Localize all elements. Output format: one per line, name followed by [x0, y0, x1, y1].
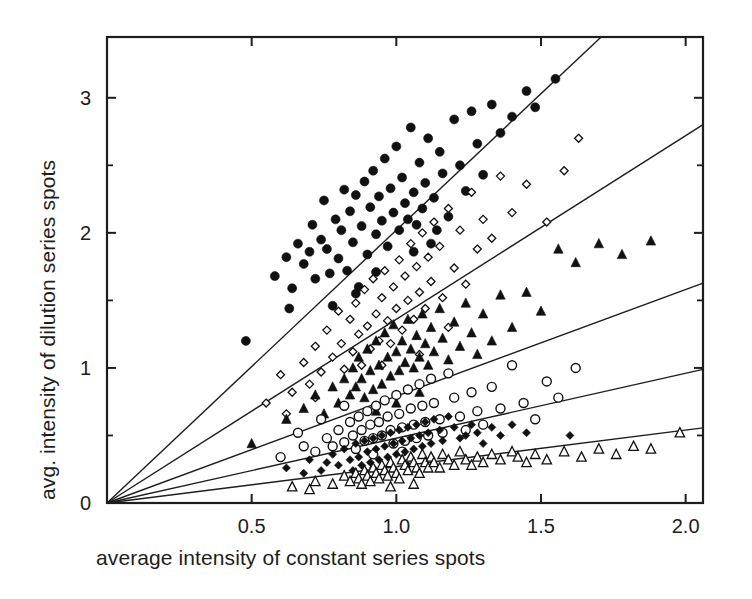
data-point [386, 371, 395, 380]
data-point [455, 341, 464, 350]
data-point [438, 169, 447, 178]
data-point [282, 253, 291, 262]
data-point [363, 407, 372, 416]
data-point [306, 380, 314, 388]
x-axis-label: average intensity of constant series spo… [96, 546, 485, 570]
data-point [241, 336, 250, 345]
data-point [496, 290, 505, 299]
data-point [328, 479, 337, 488]
data-point [427, 440, 435, 448]
data-point [467, 328, 476, 337]
data-point [346, 207, 355, 216]
data-point [409, 188, 418, 197]
data-point [404, 296, 412, 304]
data-point [424, 253, 432, 261]
data-point [288, 388, 296, 396]
data-point [449, 317, 458, 326]
fit-2 [107, 125, 703, 503]
data-point [473, 139, 482, 148]
data-point [311, 447, 320, 456]
data-point [343, 266, 352, 275]
data-point [429, 193, 438, 202]
y-axis-label: avg. intensity of dilution series spots [36, 160, 60, 500]
data-point [429, 347, 438, 356]
scatter-plot-figure: 0.51.01.52.00123 average intensity of co… [0, 0, 752, 599]
data-point [247, 438, 256, 447]
data-point [508, 112, 517, 121]
data-point [348, 238, 357, 247]
data-point [522, 87, 531, 96]
data-point [276, 453, 285, 462]
data-point [395, 409, 404, 418]
data-point [551, 74, 560, 83]
svg-text:3: 3 [80, 87, 91, 109]
axis-ticks [107, 37, 703, 503]
data-point [311, 342, 319, 350]
data-point [456, 226, 464, 234]
data-point [479, 420, 488, 429]
data-point [363, 250, 372, 259]
data-point [421, 178, 430, 187]
data-point [300, 469, 308, 477]
data-point [360, 392, 369, 401]
data-point [323, 458, 331, 466]
data-point [383, 352, 392, 361]
data-point [372, 230, 381, 239]
data-point [415, 380, 424, 389]
data-point [392, 304, 400, 312]
data-point [479, 170, 488, 179]
data-point [418, 401, 427, 410]
data-point [435, 303, 444, 312]
data-point [496, 431, 504, 439]
series-open-diamonds [262, 134, 582, 418]
data-point [401, 272, 409, 280]
data-point [372, 310, 380, 318]
data-point [508, 361, 517, 370]
data-point [355, 330, 363, 338]
data-point [438, 449, 447, 458]
data-point [531, 415, 540, 424]
data-point [392, 142, 401, 151]
data-point [403, 385, 412, 394]
data-point [559, 446, 568, 455]
data-point [398, 326, 406, 334]
data-point [360, 177, 369, 186]
data-point [444, 205, 452, 213]
data-point [406, 404, 415, 413]
data-point [575, 134, 583, 142]
data-point [299, 403, 308, 412]
data-point [536, 306, 545, 315]
data-point [450, 115, 459, 124]
data-point [377, 379, 386, 388]
data-point [438, 333, 447, 342]
data-point [328, 382, 337, 391]
data-point [415, 288, 423, 296]
data-point [323, 326, 331, 334]
data-point [435, 147, 444, 156]
data-point [366, 365, 375, 374]
data-point [424, 134, 433, 143]
data-point [389, 283, 397, 291]
data-point [450, 264, 458, 272]
data-point [488, 234, 496, 242]
data-point [372, 401, 381, 410]
data-point [429, 399, 438, 408]
data-point [322, 434, 331, 443]
data-point [629, 441, 638, 450]
data-point [455, 446, 464, 455]
data-point [409, 363, 418, 372]
data-point [409, 247, 418, 256]
data-point [430, 218, 438, 226]
data-point [285, 304, 294, 313]
data-point [496, 172, 504, 180]
data-point [334, 254, 343, 263]
data-point [369, 166, 378, 175]
data-point [412, 220, 421, 229]
data-point [351, 191, 360, 200]
data-point [496, 404, 505, 413]
data-point [357, 426, 366, 435]
data-point [611, 449, 620, 458]
svg-text:2.0: 2.0 [672, 515, 700, 537]
data-point [293, 428, 302, 437]
data-point [439, 437, 447, 445]
